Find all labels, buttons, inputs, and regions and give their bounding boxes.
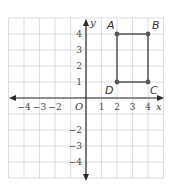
y-tick-label: −3 xyxy=(69,141,83,151)
coordinate-plane: −4−3−212344321−2−3−4 x y O ABCD xyxy=(0,0,170,187)
vertex-label-d: D xyxy=(105,84,113,97)
axes xyxy=(9,19,164,181)
x-axis-left-arrow-icon xyxy=(9,95,16,101)
x-tick-label: 2 xyxy=(114,102,120,112)
y-tick-label: −4 xyxy=(69,157,83,167)
x-axis-label: x xyxy=(156,101,162,112)
vertex-label-b: B xyxy=(152,19,160,32)
vertex-label-c: C xyxy=(150,84,158,97)
y-axis-label: y xyxy=(89,17,96,28)
x-tick-label: −4 xyxy=(17,102,31,112)
y-axis-up-arrow-icon xyxy=(83,19,89,26)
y-axis-down-arrow-icon xyxy=(83,174,89,181)
y-tick-label: 1 xyxy=(76,77,82,87)
x-tick-label: 4 xyxy=(145,102,151,112)
y-tick-label: −2 xyxy=(69,125,82,135)
y-tick-label: 3 xyxy=(76,45,82,55)
vertex-point-d xyxy=(115,80,120,85)
x-tick-label: −3 xyxy=(33,102,47,112)
y-tick-label: 4 xyxy=(76,29,82,39)
vertex-label-a: A xyxy=(106,19,115,32)
x-tick-label: 3 xyxy=(130,102,136,112)
y-tick-label: 2 xyxy=(76,61,82,71)
origin-label: O xyxy=(75,101,83,112)
vertex-point-b xyxy=(146,32,151,37)
x-tick-label: 1 xyxy=(99,102,105,112)
x-tick-label: −2 xyxy=(48,102,61,112)
vertex-point-a xyxy=(115,32,120,37)
coordinate-plane-svg: −4−3−212344321−2−3−4 x y O ABCD xyxy=(0,0,170,187)
